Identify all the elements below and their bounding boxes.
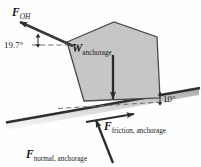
weight-subscript: anchorage [82, 49, 112, 57]
force-oh-arrow [20, 22, 73, 46]
angle-lower-label: 10° [163, 94, 176, 104]
normal-symbol: F [25, 148, 34, 160]
normal-label: Fnormal, anchorage [25, 148, 87, 163]
friction-subscript: friction, anchorage [112, 127, 166, 135]
normal-subscript: normal, anchorage [34, 155, 87, 163]
friction-label: Ffriction, anchorage [103, 120, 166, 135]
diagram-canvas: FOH 19.7° Wanchorage 10° Ffriction, anch… [0, 0, 201, 167]
free-body-diagram: FOH 19.7° Wanchorage 10° Ffriction, anch… [0, 0, 201, 167]
force-oh-subscript: OH [20, 12, 31, 21]
angle-tick-upper [36, 34, 41, 48]
force-oh-symbol: F [11, 6, 20, 18]
angle-upper-label: 19.7° [4, 40, 24, 50]
force-oh-label: FOH [11, 6, 31, 21]
friction-symbol: F [103, 120, 112, 132]
